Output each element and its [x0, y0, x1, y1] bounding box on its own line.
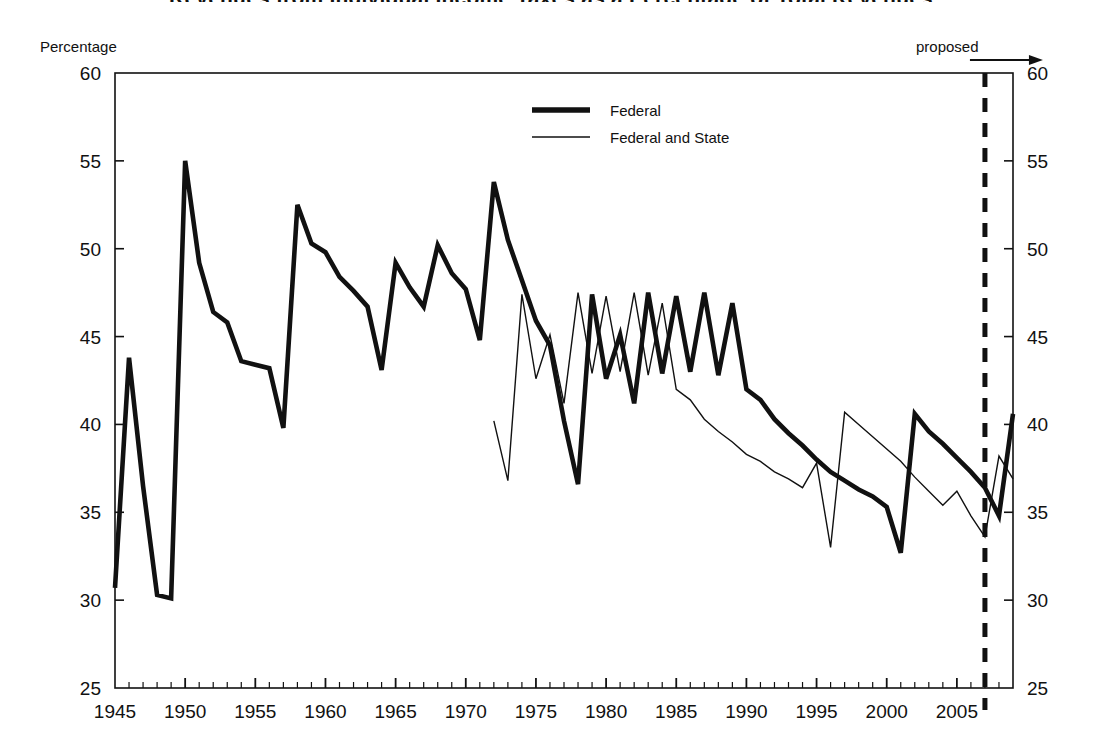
y-tick-label-left: 60 — [80, 63, 101, 84]
series-line-federal-and-state — [494, 293, 1013, 548]
x-tick-label: 1985 — [655, 701, 697, 722]
y-tick-label-right: 50 — [1027, 239, 1048, 260]
y-tick-label-left: 40 — [80, 414, 101, 435]
chart-figure: Revenues from Individual Income Taxes as… — [0, 0, 1102, 754]
x-tick-label: 1990 — [725, 701, 767, 722]
y-tick-label-right: 60 — [1027, 63, 1048, 84]
legend-label-federal: Federal — [610, 102, 661, 119]
x-tick-label: 2005 — [936, 701, 978, 722]
x-tick-label: 1945 — [94, 701, 136, 722]
y-tick-label-right: 45 — [1027, 327, 1048, 348]
y-tick-label-left: 25 — [80, 678, 101, 699]
y-tick-label-right: 25 — [1027, 678, 1048, 699]
y-tick-label-left: 55 — [80, 151, 101, 172]
y-tick-label-right: 35 — [1027, 502, 1048, 523]
x-tick-label: 1955 — [234, 701, 276, 722]
y-tick-label-right: 55 — [1027, 151, 1048, 172]
y-tick-label-left: 30 — [80, 590, 101, 611]
x-tick-label: 2000 — [866, 701, 908, 722]
chart-plot-area: 2525303035354040454550505555606019451950… — [0, 0, 1102, 754]
y-tick-label-left: 50 — [80, 239, 101, 260]
x-tick-label: 1980 — [585, 701, 627, 722]
x-tick-label: 1950 — [164, 701, 206, 722]
y-tick-label-left: 35 — [80, 502, 101, 523]
x-tick-label: 1970 — [445, 701, 487, 722]
x-tick-label: 1965 — [374, 701, 416, 722]
x-tick-label: 1960 — [304, 701, 346, 722]
series-line-federal — [115, 161, 1013, 599]
y-tick-label-right: 30 — [1027, 590, 1048, 611]
plot-frame — [115, 73, 1013, 688]
x-tick-label: 1995 — [795, 701, 837, 722]
legend-label-federal-and-state: Federal and State — [610, 129, 729, 146]
x-tick-label: 1975 — [515, 701, 557, 722]
y-tick-label-right: 40 — [1027, 414, 1048, 435]
y-tick-label-left: 45 — [80, 327, 101, 348]
